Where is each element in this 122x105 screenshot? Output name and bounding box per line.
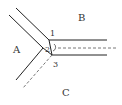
region-label-b: B [78, 12, 85, 23]
angle-arc-icon [53, 44, 56, 51]
boundary-upper-outer [16, 8, 49, 40]
point-label-2: 2 [45, 45, 50, 54]
region-label-c: C [62, 87, 70, 98]
point-label-3: 3 [53, 60, 58, 69]
boundary-lower-dashed [23, 55, 52, 88]
region-label-a: A [12, 44, 21, 55]
grain-boundary-junction-diagram: A B C 1 2 3 [0, 0, 122, 105]
point-label-1: 1 [50, 29, 55, 38]
